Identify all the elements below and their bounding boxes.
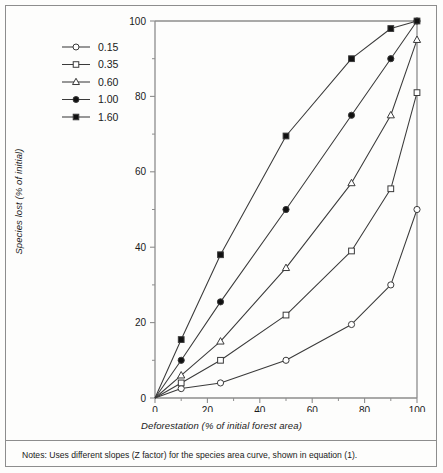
filled-square-marker bbox=[414, 18, 420, 24]
x-tick-label: 40 bbox=[254, 405, 266, 412]
line-chart-svg: 0204060801000204060801000.150.350.601.00… bbox=[0, 0, 443, 412]
filled-square-marker bbox=[388, 26, 394, 32]
open-square-marker bbox=[178, 380, 184, 386]
open-circle-marker bbox=[414, 206, 420, 212]
x-axis-title: Deforestation (% of initial forest area) bbox=[0, 420, 443, 431]
chart-plot-area: 0204060801000204060801000.150.350.601.00… bbox=[0, 0, 443, 412]
series-line bbox=[155, 210, 417, 399]
open-circle-marker bbox=[217, 380, 223, 386]
filled-circle-marker bbox=[217, 299, 223, 305]
notes-divider bbox=[6, 440, 436, 441]
filled-square-marker bbox=[349, 56, 355, 62]
legend-label: 0.15 bbox=[98, 41, 119, 53]
open-circle-marker bbox=[388, 282, 394, 288]
y-tick-label: 0 bbox=[140, 393, 146, 404]
open-square-marker bbox=[414, 90, 420, 96]
open-square-marker bbox=[283, 312, 289, 318]
x-tick-label: 100 bbox=[409, 405, 426, 412]
y-axis-title: Species lost (% of initial) bbox=[13, 122, 24, 282]
legend-label: 1.00 bbox=[98, 93, 119, 105]
legend-label: 1.60 bbox=[98, 111, 119, 123]
filled-square-marker bbox=[178, 337, 184, 343]
filled-square-marker bbox=[218, 252, 224, 258]
open-triangle-marker bbox=[348, 179, 355, 185]
open-square-marker bbox=[73, 62, 79, 68]
open-circle-marker bbox=[178, 385, 184, 391]
open-triangle-marker bbox=[178, 372, 185, 378]
filled-circle-marker bbox=[283, 206, 289, 212]
x-tick-label: 80 bbox=[359, 405, 371, 412]
y-tick-label: 100 bbox=[129, 16, 146, 27]
series-line bbox=[155, 40, 417, 398]
open-triangle-marker bbox=[73, 78, 80, 84]
open-triangle-marker bbox=[413, 36, 420, 42]
y-tick-label: 60 bbox=[135, 166, 147, 177]
filled-square-marker bbox=[73, 114, 79, 120]
open-circle-marker bbox=[348, 321, 354, 327]
x-tick-label: 0 bbox=[152, 405, 158, 412]
open-circle-marker bbox=[283, 357, 289, 363]
y-tick-label: 20 bbox=[135, 317, 147, 328]
series-1-00 bbox=[155, 18, 420, 398]
chart-legend: 0.150.350.601.001.60 bbox=[62, 41, 119, 123]
open-circle-marker bbox=[73, 44, 79, 50]
series-0-60 bbox=[155, 36, 421, 398]
figure-container: 0204060801000204060801000.150.350.601.00… bbox=[0, 0, 443, 473]
open-square-marker bbox=[218, 357, 224, 363]
filled-square-marker bbox=[283, 133, 289, 139]
filled-circle-marker bbox=[388, 56, 394, 62]
open-triangle-marker bbox=[387, 111, 394, 117]
x-tick-label: 20 bbox=[202, 405, 214, 412]
figure-notes: Notes: Uses different slopes (Z factor) … bbox=[22, 449, 427, 461]
open-square-marker bbox=[349, 248, 355, 254]
legend-label: 0.60 bbox=[98, 76, 119, 88]
filled-circle-marker bbox=[178, 357, 184, 363]
filled-circle-marker bbox=[73, 97, 79, 103]
open-square-marker bbox=[388, 186, 394, 192]
series-0-15 bbox=[155, 206, 420, 398]
filled-circle-marker bbox=[348, 112, 354, 118]
legend-label: 0.35 bbox=[98, 58, 119, 70]
x-tick-label: 60 bbox=[307, 405, 319, 412]
y-tick-label: 80 bbox=[135, 91, 147, 102]
y-tick-label: 40 bbox=[135, 242, 147, 253]
